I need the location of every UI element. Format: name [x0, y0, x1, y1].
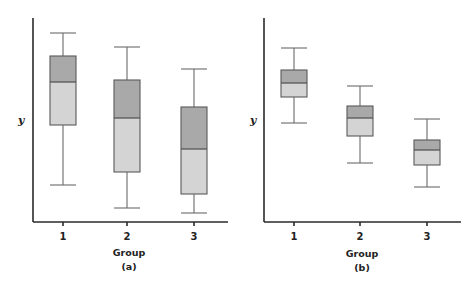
box-group-2 [114, 47, 140, 208]
panel-b: y [249, 18, 461, 273]
box-group-2 [347, 86, 373, 163]
x-tick-2: 2 [357, 231, 364, 242]
y-axis-label: y [249, 114, 258, 127]
x-tick-3: 3 [424, 231, 431, 242]
box-group-3 [414, 119, 440, 187]
y-axis-label: y [17, 114, 26, 127]
x-axis-title: Group [113, 247, 146, 258]
x-tick-1: 1 [60, 231, 67, 242]
box-group-1 [50, 33, 76, 185]
x-tick-3: 3 [191, 231, 198, 242]
panel-label: (a) [121, 261, 136, 272]
x-axis-title: Group [346, 248, 379, 259]
panel-a: y [17, 18, 228, 272]
figure: y [0, 0, 475, 287]
x-tick-1: 1 [291, 231, 298, 242]
panel-label: (b) [354, 262, 369, 273]
box-group-3 [181, 69, 207, 213]
x-tick-2: 2 [124, 231, 131, 242]
box-group-1 [281, 48, 307, 123]
